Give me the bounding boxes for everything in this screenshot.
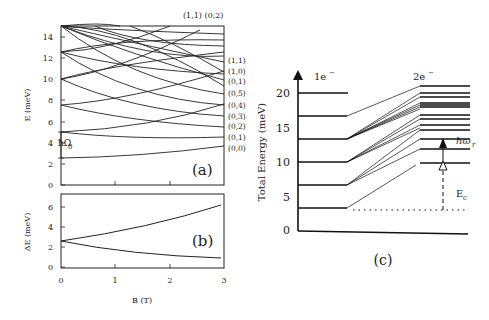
figure: 0 2 4 6 8 10 12 14 E (meV) ħΩ 0 (1,1) (0… xyxy=(0,0,489,320)
svg-text:4: 4 xyxy=(48,223,53,232)
svg-text:3: 3 xyxy=(221,276,226,285)
svg-text:12: 12 xyxy=(43,54,53,63)
svg-text:0: 0 xyxy=(68,143,72,151)
svg-text:1e: 1e xyxy=(314,71,326,82)
svg-text:6: 6 xyxy=(48,203,53,212)
svg-text:ħω: ħω xyxy=(456,135,471,146)
svg-text:(b): (b) xyxy=(192,232,213,250)
svg-text:5: 5 xyxy=(283,191,290,204)
svg-text:(a): (a) xyxy=(192,161,213,179)
svg-text:(0,3): (0,3) xyxy=(228,112,246,121)
svg-text:0: 0 xyxy=(58,276,63,285)
svg-text:2: 2 xyxy=(167,276,172,285)
svg-text:(0,2): (0,2) xyxy=(228,122,246,131)
svg-text:14: 14 xyxy=(43,33,53,42)
panel-c xyxy=(293,70,470,234)
svg-text:2: 2 xyxy=(48,243,53,252)
svg-text:(c): (c) xyxy=(374,252,393,268)
panel-b xyxy=(61,194,224,268)
svg-text:2e: 2e xyxy=(413,71,425,82)
svg-text:20: 20 xyxy=(276,87,290,100)
svg-text:(0,4): (0,4) xyxy=(228,101,246,110)
svg-text:Total Energy (meV): Total Energy (meV) xyxy=(256,103,267,201)
svg-text:−: − xyxy=(428,69,434,77)
svg-text:(0,0): (0,0) xyxy=(228,144,246,153)
svg-text:(0,1): (0,1) xyxy=(228,133,246,142)
svg-text:(0,1): (0,1) xyxy=(228,77,246,86)
svg-text:10: 10 xyxy=(43,75,53,84)
svg-text:(1,0): (1,0) xyxy=(228,67,246,76)
svg-text:4: 4 xyxy=(48,139,53,148)
svg-text:2: 2 xyxy=(48,160,53,169)
svg-text:E (meV): E (meV) xyxy=(23,89,32,122)
svg-text:(1,1): (1,1) xyxy=(228,56,246,65)
svg-text:0: 0 xyxy=(48,181,53,190)
svg-text:r: r xyxy=(472,141,476,149)
svg-text:(0,5): (0,5) xyxy=(228,89,246,98)
svg-text:(1,1) (0,2): (1,1) (0,2) xyxy=(183,11,223,20)
svg-text:0: 0 xyxy=(283,224,290,237)
svg-text:6: 6 xyxy=(48,118,53,127)
panel-b-text: 0 2 4 6 0 1 2 3 B (T) ΔE (meV) (b) xyxy=(23,203,227,305)
svg-text:c: c xyxy=(463,194,467,202)
svg-text:8: 8 xyxy=(48,96,53,105)
svg-text:0: 0 xyxy=(48,263,53,272)
svg-text:B (T): B (T) xyxy=(132,296,152,305)
svg-text:10: 10 xyxy=(276,156,290,169)
svg-text:ΔE (meV): ΔE (meV) xyxy=(23,213,32,252)
svg-text:15: 15 xyxy=(276,122,290,135)
svg-text:−: − xyxy=(329,69,335,77)
svg-text:1: 1 xyxy=(112,276,117,285)
